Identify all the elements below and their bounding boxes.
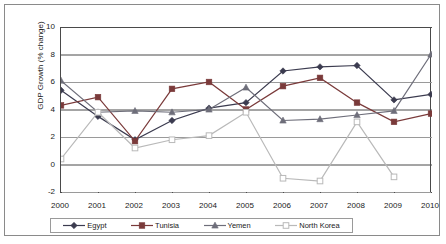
legend-marker-square-icon [131,221,153,230]
y-tick-label: -2 [31,188,55,196]
data-point [283,223,289,229]
x-tick-label: 2007 [299,201,339,210]
data-point [169,137,175,143]
y-tick-label: 6 [31,78,55,86]
x-tick-label: 2010 [410,201,446,210]
data-point [243,109,249,115]
x-tick-label: 2009 [373,201,413,210]
legend-item-egypt[interactable]: Egypt [63,221,106,230]
data-point [391,119,397,125]
data-point [317,178,323,184]
legend-item-yemen[interactable]: Yemen [204,221,251,230]
data-point [71,222,77,228]
data-point [428,111,432,117]
x-tick-label: 2006 [262,201,302,210]
data-point [206,79,212,85]
legend-label: Tunisia [155,221,179,230]
legend-label: Yemen [228,221,251,230]
legend-marker-triangle-icon [204,221,226,230]
data-point [61,156,64,162]
data-point [428,51,432,57]
y-tick-label: 0 [31,161,55,169]
data-point [139,223,145,229]
y-tick-label: 2 [31,133,55,141]
x-tick-label: 2005 [225,201,265,210]
legend-marker-diamond-icon [63,221,85,230]
y-tick-label: 4 [31,106,55,114]
chart-container: GDP Growth (% change) 1086420-2 20002001… [4,4,440,236]
y-tick-label: 8 [31,51,55,59]
data-point [95,109,101,115]
x-tick-label: 2008 [336,201,376,210]
data-point [354,119,360,125]
data-point [206,133,212,139]
data-point [243,84,249,90]
legend-label: Egypt [87,221,106,230]
x-tick-label: 2003 [151,201,191,210]
chart-plot-svg [61,27,432,193]
series-line-north-korea [61,112,394,181]
data-point [132,145,138,151]
data-point [61,77,64,83]
data-point [95,94,101,100]
x-tick-label: 2000 [40,201,80,210]
legend-item-north-korea[interactable]: North Korea [275,221,339,230]
legend-label: North Korea [299,221,339,230]
x-axis-tick-labels: 2000200120022003200420052006200720082009… [60,201,431,213]
x-tick-label: 2001 [77,201,117,210]
legend-marker-open-square-icon [275,221,297,230]
data-point [61,103,64,109]
data-point [280,83,286,89]
data-point [169,117,175,123]
data-point [317,75,323,81]
chart-legend: EgyptTunisiaYemenNorth Korea [50,218,353,233]
data-point [280,175,286,181]
data-point [428,91,432,97]
data-point [317,64,323,70]
y-axis-tick-labels: 1086420-2 [31,27,55,193]
y-tick-label: 10 [31,23,55,31]
x-tick-label: 2002 [114,201,154,210]
data-point [391,174,397,180]
legend-item-tunisia[interactable]: Tunisia [131,221,179,230]
data-point [169,86,175,92]
data-point [132,138,138,144]
data-point [354,100,360,106]
plot-area [60,27,431,193]
x-tick-label: 2004 [188,201,228,210]
